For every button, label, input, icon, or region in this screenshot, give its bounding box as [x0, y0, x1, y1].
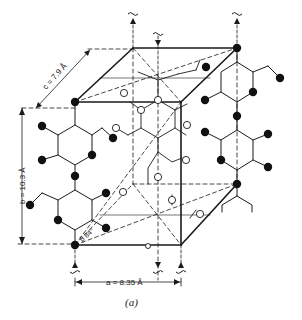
arrow-up-icon: [234, 18, 240, 24]
unit-cell-diagram: c = 7.9 Å b = 10.3 Å a = 8.35 Å β 84° (a…: [0, 0, 302, 320]
label-c: c = 7.9 Å: [41, 61, 69, 91]
label-beta: β 84°: [78, 227, 96, 244]
filled-atoms: [26, 44, 284, 249]
arrow-down-icon: [155, 40, 161, 46]
screw-symbols: [70, 13, 242, 274]
arrow-down-icon: [155, 262, 161, 268]
arrow-up-icon: [72, 262, 78, 268]
screw-axes: [75, 20, 237, 265]
arrow-up-icon: [178, 262, 184, 268]
label-a: a = 8.35 Å: [106, 278, 143, 287]
unit-cell-edges: [75, 48, 237, 245]
figure-caption: (a): [125, 296, 138, 309]
arrow-up-icon: [130, 18, 136, 24]
label-b: b = 10.3 Å: [18, 167, 27, 204]
